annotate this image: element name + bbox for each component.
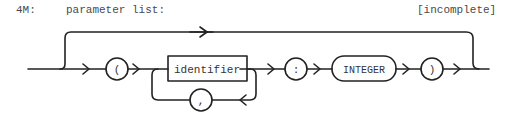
svg-text::: : (293, 64, 300, 76)
svg-text:identifier: identifier (174, 64, 240, 76)
svg-text:(: ( (114, 64, 121, 76)
railroad-diagram: ( identifier , : INTEGER ) (0, 0, 508, 123)
svg-text:INTEGER: INTEGER (343, 65, 385, 76)
svg-text:,: , (198, 95, 205, 107)
svg-text:): ) (429, 64, 436, 76)
